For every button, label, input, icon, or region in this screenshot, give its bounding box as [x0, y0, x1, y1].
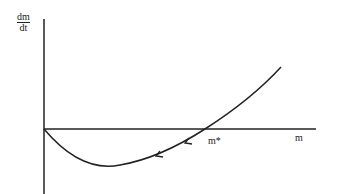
y-axis-label: dm dt: [17, 12, 30, 33]
x-axis-label: m: [295, 133, 303, 143]
y-axis-label-denominator: dt: [17, 23, 30, 33]
dm-dt-curve: [44, 67, 281, 166]
phase-diagram: [0, 0, 337, 194]
arrow-icon: [185, 138, 192, 144]
equilibrium-label: m*: [208, 136, 221, 146]
